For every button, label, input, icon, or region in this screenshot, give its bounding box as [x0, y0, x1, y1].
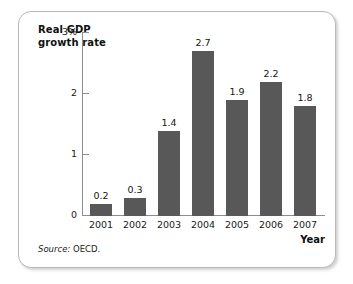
y-axis-tick-label: 1	[19, 149, 77, 159]
bar-value-label-2005: 1.9	[220, 86, 254, 97]
x-axis-label-2007: 2007	[288, 218, 322, 231]
bar-2001	[90, 204, 112, 216]
bar-2005	[226, 100, 248, 216]
bar-value-label-2007: 1.8	[288, 92, 322, 103]
x-axis-label-2003: 2003	[152, 218, 186, 231]
bar-slot: 1.9	[220, 33, 254, 216]
bar-2004	[192, 51, 214, 216]
bar-slot: 2.2	[254, 33, 288, 216]
y-axis-tick-label-text: 1	[33, 149, 77, 159]
figure-frame: Real GDP growth rate 0123% 0.20.31.42.71…	[18, 11, 336, 268]
y-axis-tick-label: 2	[19, 88, 77, 98]
source-value: OECD.	[73, 244, 100, 254]
bar-value-label-2001: 0.2	[84, 190, 118, 201]
bar-value-label-2006: 2.2	[254, 68, 288, 79]
y-axis-tick-label: 3%	[19, 27, 77, 37]
bar-2007	[294, 106, 316, 216]
bar-slot: 2.7	[186, 33, 220, 216]
source-label: Source:	[38, 244, 70, 254]
bar-2006	[260, 82, 282, 216]
bar-value-label-2004: 2.7	[186, 37, 220, 48]
source-note: Source: OECD.	[38, 244, 100, 254]
x-axis-label-2002: 2002	[118, 218, 152, 231]
y-axis-tick-label-text: 3%	[33, 27, 77, 37]
bars-group: 0.20.31.42.71.92.21.8	[82, 32, 325, 216]
x-axis-title: Year	[269, 234, 325, 245]
bar-2002	[124, 198, 146, 216]
y-axis-tick-label: 0	[19, 210, 77, 220]
x-axis-label-2006: 2006	[254, 218, 288, 231]
x-axis-label-2005: 2005	[220, 218, 254, 231]
bar-2003	[158, 131, 180, 216]
x-axis-label-2001: 2001	[84, 218, 118, 231]
y-axis-tick-label-text: 0	[33, 210, 77, 220]
bar-slot: 0.2	[84, 33, 118, 216]
bar-slot: 1.4	[152, 33, 186, 216]
y-axis-tick-label-text: 2	[33, 88, 77, 98]
x-axis-tick-labels: 2001200220032004200520062007	[82, 218, 325, 232]
bar-value-label-2003: 1.4	[152, 117, 186, 128]
chart-plot-area: Real GDP growth rate 0123% 0.20.31.42.71…	[19, 12, 335, 267]
bar-slot: 0.3	[118, 33, 152, 216]
bar-slot: 1.8	[288, 33, 322, 216]
bar-value-label-2002: 0.3	[118, 184, 152, 195]
x-axis-label-2004: 2004	[186, 218, 220, 231]
